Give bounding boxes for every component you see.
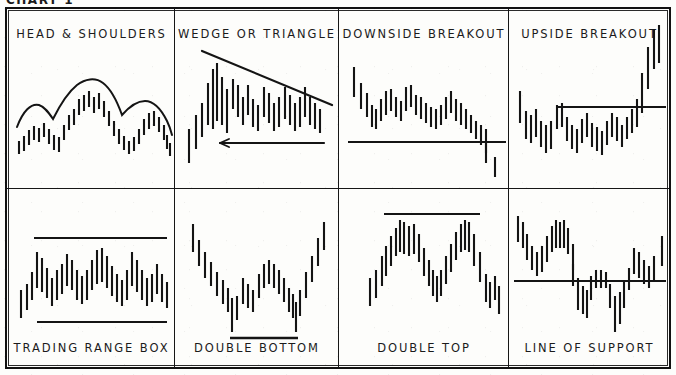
plot-wedge-or-triangle [176, 11, 338, 188]
wedge-lower-trendline-with-arrow [220, 139, 324, 147]
figure-frame: HEAD & SHOULDERS [5, 7, 671, 369]
panel-line-of-support[interactable]: LINE OF SUPPORT [510, 190, 669, 367]
panel-downside-breakout[interactable]: DOWNSIDE BREAKOUT [340, 11, 508, 188]
panel-double-top[interactable]: DOUBLE TOP [340, 190, 508, 367]
panel-double-bottom[interactable]: DOUBLE BOTTOM [176, 190, 338, 367]
plot-head-and-shoulders [9, 11, 174, 188]
plot-line-of-support [510, 190, 669, 367]
figure-caption: CHART 1 [6, 0, 74, 4]
panel-head-and-shoulders[interactable]: HEAD & SHOULDERS [9, 11, 174, 188]
panel-trading-range-box[interactable]: TRADING RANGE BOX [9, 190, 174, 367]
plot-downside-breakout [340, 11, 508, 188]
plot-upside-breakout [510, 11, 669, 188]
panel-wedge-or-triangle[interactable]: WEDGE OR TRIANGLE [176, 11, 338, 188]
plot-double-top [340, 190, 508, 367]
grid-horizontal-rule-1 [7, 188, 669, 189]
plot-trading-range-box [9, 190, 174, 367]
chart-patterns-figure: CHART 1 HEAD & SHOULDERS [0, 0, 676, 375]
plot-double-bottom [176, 190, 338, 367]
panel-upside-breakout[interactable]: UPSIDE BREAKOUT [510, 11, 669, 188]
